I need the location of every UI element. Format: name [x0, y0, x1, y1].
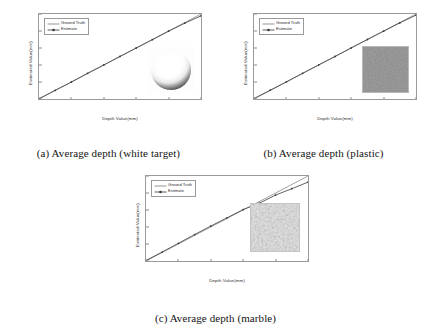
panel-caption-c: (c) Average depth (marble) — [113, 312, 318, 324]
x-axis-label-a: Depth Value(mm) — [38, 116, 202, 121]
legend-row-estimate-b: Estimate — [262, 27, 300, 33]
plastic-surface-photo — [362, 46, 409, 93]
y-tick-a-30: 30 — [38, 46, 39, 50]
y-tick-c-50: 50 — [145, 175, 146, 178]
plot-frame-a: 0 10 20 30 40 50 0 10 20 30 40 50 Ground… — [38, 13, 202, 100]
legend-row-estimate-a: Estimate — [47, 27, 85, 33]
white-target-sphere-photo — [148, 47, 194, 93]
x-tick-c-50: 50 — [306, 261, 309, 262]
legend-label-ground-truth-a: Ground Truth — [60, 21, 85, 25]
legend-a: Ground Truth Estimate — [44, 18, 89, 35]
figure-panel-a: Estimated Value(mm) Depth Value(mm) — [6, 4, 211, 159]
plastic-noise-texture — [363, 47, 408, 92]
plot-area-b: Estimated Value(mm) Depth Value(mm) — [221, 4, 426, 122]
x-tick-b-0: 0 — [253, 99, 255, 100]
x-tick-c-20: 20 — [209, 261, 214, 262]
y-tick-b-40: 40 — [253, 29, 254, 33]
legend-row-estimate-c: Estimate — [154, 189, 192, 195]
x-tick-c-30: 30 — [241, 261, 246, 262]
y-tick-c-30: 30 — [145, 208, 146, 212]
y-axis-label-a: Estimated Value(mm) — [28, 41, 33, 85]
x-tick-b-20: 20 — [317, 99, 322, 100]
y-axis-label-c: Estimated Value(mm) — [135, 203, 140, 247]
y-tick-c-20: 20 — [145, 225, 146, 229]
legend-label-estimate-c: Estimate — [167, 189, 184, 193]
figure-panel-c: Estimated Value(mm) Depth Value(mm) — [113, 166, 318, 324]
plot-frame-b: 0 10 20 30 40 50 0 10 20 30 40 50 Ground… — [253, 13, 417, 100]
x-tick-b-40: 40 — [381, 99, 386, 100]
x-tick-b-50: 50 — [414, 99, 417, 100]
legend-c: Ground Truth Estimate — [151, 180, 196, 197]
y-tick-b-10: 10 — [253, 80, 254, 84]
x-tick-a-20: 20 — [102, 99, 107, 100]
x-tick-c-40: 40 — [273, 261, 278, 262]
plot-frame-c: 0 10 20 30 40 50 0 10 20 30 40 50 Ground… — [145, 175, 309, 262]
y-tick-b-30: 30 — [253, 46, 254, 50]
legend-label-ground-truth-b: Ground Truth — [275, 21, 300, 25]
x-tick-c-10: 10 — [176, 261, 181, 262]
y-tick-b-50: 50 — [253, 13, 254, 16]
y-tick-a-20: 20 — [38, 63, 39, 67]
x-tick-b-10: 10 — [284, 99, 289, 100]
x-tick-a-50: 50 — [199, 99, 202, 100]
panel-caption-a: (a) Average depth (white target) — [6, 147, 211, 159]
legend-line-marker-icon — [47, 27, 60, 33]
legend-line-marker-icon — [262, 27, 275, 33]
y-tick-a-40: 40 — [38, 29, 39, 33]
plot-area-c: Estimated Value(mm) Depth Value(mm) — [113, 166, 318, 284]
legend-label-ground-truth-c: Ground Truth — [167, 183, 192, 187]
legend-line-marker-icon — [154, 189, 167, 195]
panel-caption-b: (b) Average depth (plastic) — [221, 147, 426, 159]
marble-noise-texture — [251, 204, 299, 251]
x-tick-a-0: 0 — [38, 99, 40, 100]
x-tick-b-30: 30 — [349, 99, 354, 100]
x-axis-label-b: Depth Value(mm) — [253, 116, 417, 121]
y-tick-c-40: 40 — [145, 191, 146, 195]
y-tick-a-10: 10 — [38, 80, 39, 84]
x-tick-a-30: 30 — [134, 99, 139, 100]
x-tick-a-10: 10 — [69, 99, 74, 100]
x-tick-a-40: 40 — [166, 99, 171, 100]
marble-surface-photo — [250, 203, 300, 252]
x-axis-label-c: Depth Value(mm) — [145, 278, 309, 283]
y-tick-a-50: 50 — [38, 13, 39, 16]
plot-area-a: Estimated Value(mm) Depth Value(mm) — [6, 4, 211, 122]
x-tick-c-0: 0 — [145, 261, 147, 262]
legend-b: Ground Truth Estimate — [259, 18, 304, 35]
y-axis-label-b: Estimated Value(mm) — [243, 41, 248, 85]
figure-panel-b: Estimated Value(mm) Depth Value(mm) — [221, 4, 426, 159]
y-tick-c-10: 10 — [145, 242, 146, 246]
y-tick-b-20: 20 — [253, 63, 254, 67]
legend-label-estimate-b: Estimate — [275, 27, 292, 31]
legend-label-estimate-a: Estimate — [60, 27, 77, 31]
sphere-highlight — [157, 54, 182, 78]
